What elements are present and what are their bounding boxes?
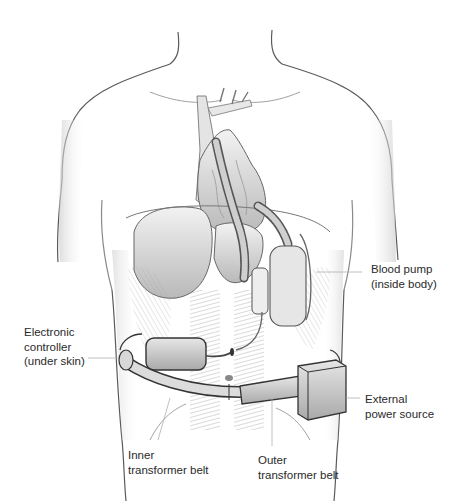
label-blood-pump: Blood pump (inside body) xyxy=(371,262,437,291)
external-power-source-device xyxy=(298,360,346,420)
label-inner-belt-line2: transformer belt xyxy=(128,463,209,478)
label-external-power-line1: External xyxy=(365,392,434,407)
label-electronic-controller-line2: controller xyxy=(24,340,85,355)
label-inner-transformer-belt: Inner transformer belt xyxy=(128,448,209,477)
illustration-figure: Blood pump (inside body) Electronic cont… xyxy=(0,0,454,501)
label-outer-belt-line2: transformer belt xyxy=(258,468,339,483)
label-blood-pump-line1: Blood pump xyxy=(371,262,437,277)
torso-illustration xyxy=(0,0,454,501)
label-inner-belt-line1: Inner xyxy=(128,448,209,463)
electronic-controller-device xyxy=(146,338,234,370)
label-electronic-controller-line1: Electronic xyxy=(24,325,85,340)
label-electronic-controller: Electronic controller (under skin) xyxy=(24,325,85,369)
label-electronic-controller-line3: (under skin) xyxy=(24,354,85,369)
label-external-power-source: External power source xyxy=(365,392,434,421)
label-blood-pump-line2: (inside body) xyxy=(371,277,437,292)
label-outer-transformer-belt: Outer transformer belt xyxy=(258,453,339,482)
label-outer-belt-line1: Outer xyxy=(258,453,339,468)
label-external-power-line2: power source xyxy=(365,407,434,422)
